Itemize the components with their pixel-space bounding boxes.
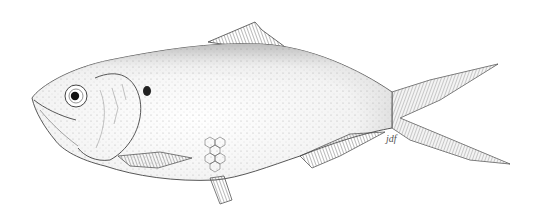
artist-signature: jdf — [386, 133, 397, 144]
pelvic-fin — [210, 176, 232, 204]
shoulder-spot — [143, 86, 151, 96]
fish-illustration: jdf — [0, 0, 539, 217]
fish-drawing — [0, 0, 539, 217]
